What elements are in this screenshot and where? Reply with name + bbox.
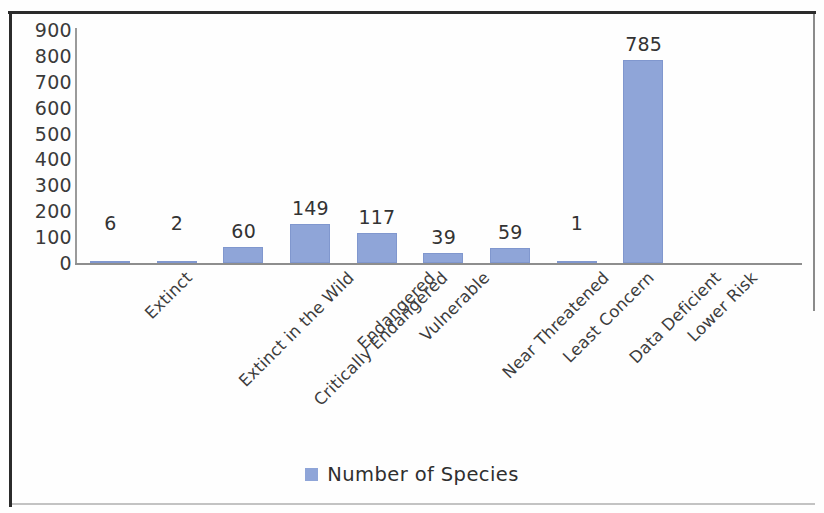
y-tick-label: 0: [10, 254, 72, 273]
bar-slot: 60: [210, 30, 277, 263]
bar-value-label: 6: [77, 214, 144, 233]
y-tick-label: 100: [10, 228, 72, 247]
bar[interactable]: [623, 60, 663, 263]
x-axis-category-labels: ExtinctExtinct in the WildCritically End…: [77, 268, 677, 398]
bar[interactable]: [90, 261, 130, 264]
bar[interactable]: [357, 233, 397, 263]
bar-value-label: 59: [477, 223, 544, 242]
bar-value-label: 1: [544, 214, 611, 233]
y-tick-label: 700: [10, 73, 72, 92]
x-axis-line: [75, 263, 802, 265]
bar-value-label: 39: [410, 228, 477, 247]
bar-value-label: 149: [277, 199, 344, 218]
legend-series-label: Number of Species: [327, 463, 518, 486]
bar-slot: 1: [544, 30, 611, 263]
y-tick-label: 900: [10, 21, 72, 40]
bar-value-label: 785: [610, 35, 677, 54]
x-axis-label: Extinct: [141, 268, 196, 323]
chart-legend: Number of Species: [0, 463, 824, 486]
bar-slot: 59: [477, 30, 544, 263]
y-tick-label: 400: [10, 150, 72, 169]
y-tick-label: 500: [10, 125, 72, 144]
bar-value-label: 60: [210, 222, 277, 241]
y-tick-label: 600: [10, 99, 72, 118]
bar-slot: 117: [344, 30, 411, 263]
bar-slot: 785: [610, 30, 677, 263]
bar-chart: 9008007006005004003002001000 62601491173…: [0, 0, 824, 513]
plot-area: 626014911739591785: [77, 30, 677, 263]
bar-slot: 2: [144, 30, 211, 263]
bar-slot: 149: [277, 30, 344, 263]
bar[interactable]: [423, 253, 463, 263]
y-tick-label: 300: [10, 176, 72, 195]
square-swatch-icon: [305, 468, 318, 481]
bar[interactable]: [157, 261, 197, 264]
bar[interactable]: [290, 224, 330, 263]
bar-slot: 6: [77, 30, 144, 263]
bar-slot: 39: [410, 30, 477, 263]
bar-value-label: 2: [144, 214, 211, 233]
y-tick-label: 800: [10, 47, 72, 66]
bar-value-label: 117: [344, 208, 411, 227]
y-tick-label: 200: [10, 202, 72, 221]
bar[interactable]: [490, 248, 530, 263]
bar[interactable]: [223, 247, 263, 263]
bar[interactable]: [557, 261, 597, 264]
